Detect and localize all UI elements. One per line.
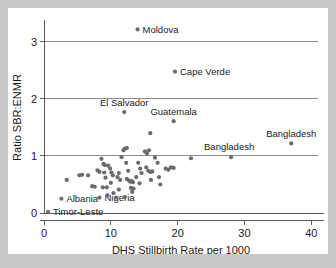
point-label-nigeria-7: Nigeria: [104, 192, 135, 203]
data-point-23: [101, 185, 105, 189]
data-point-bangladesh-4: [289, 141, 293, 145]
x-tick-label-40: 40: [305, 227, 317, 239]
point-label-cape-verde-1: Cape Verde: [180, 66, 230, 77]
figure-panel: 0123010203040DHS Stillbirth Rate per 100…: [8, 8, 328, 254]
data-point-24: [105, 185, 109, 189]
data-point-71: [114, 196, 118, 200]
data-point-40: [126, 169, 130, 173]
data-point-moldova-0: [135, 27, 139, 31]
point-label-albania-6: Albania: [66, 193, 98, 204]
y-axis-title: Ratio SBR:ENMR: [11, 74, 23, 161]
data-point-33: [118, 178, 122, 182]
data-point-48: [130, 190, 134, 194]
y-tick-label-2: 2: [31, 93, 37, 105]
data-point-63: [156, 161, 160, 165]
data-point-13: [86, 173, 90, 177]
x-tick-label-0: 0: [41, 227, 47, 239]
y-tick-label-0: 0: [31, 207, 37, 219]
data-point-bangladesh-5: [229, 155, 233, 159]
data-point-50: [136, 161, 140, 165]
data-point-26: [108, 166, 112, 170]
data-point-69: [172, 166, 176, 170]
point-label-timor-leste-8: Timor-Leste: [53, 206, 103, 217]
y-tick-label-1: 1: [31, 150, 37, 162]
data-point-52: [139, 171, 143, 175]
point-label-bangladesh-4: Bangladesh: [266, 128, 316, 139]
data-point-cape-verde-1: [173, 70, 177, 74]
data-point-64: [157, 175, 161, 179]
data-point-60: [150, 169, 154, 173]
data-point-65: [158, 182, 162, 186]
data-point-10: [65, 178, 69, 182]
data-point-17: [97, 170, 101, 174]
data-point-9: [148, 131, 152, 135]
x-tick-label-10: 10: [105, 227, 117, 239]
data-point-12: [80, 173, 84, 177]
data-point-70: [189, 156, 193, 160]
data-point-29: [109, 181, 113, 185]
chart-svg: 0123010203040DHS Stillbirth Rate per 100…: [8, 8, 328, 254]
data-point-38: [125, 146, 129, 150]
point-label-guatemala-3: Guatemala: [150, 106, 197, 117]
data-point-61: [149, 178, 153, 182]
x-axis-title: DHS Stillbirth Rate per 1000: [112, 244, 250, 254]
x-tick-label-20: 20: [172, 227, 184, 239]
x-tick-label-30: 30: [238, 227, 250, 239]
data-point-53: [137, 181, 141, 185]
data-point-34: [117, 188, 121, 192]
data-point-49: [134, 175, 138, 179]
point-label-el-salvador-2: El Salvador: [100, 97, 149, 108]
data-point-28: [111, 173, 115, 177]
data-point-62: [153, 156, 157, 160]
y-tick-label-3: 3: [31, 36, 37, 48]
data-point-30: [111, 191, 115, 195]
data-point-timor-leste-8: [46, 210, 50, 214]
data-point-72: [123, 195, 127, 199]
data-point-nigeria-7: [97, 196, 101, 200]
data-point-45: [131, 180, 135, 184]
data-point-73: [105, 193, 109, 197]
data-point-56: [147, 148, 151, 152]
point-label-bangladesh-5: Bangladesh: [204, 141, 254, 152]
data-point-albania-6: [59, 197, 63, 201]
data-point-22: [103, 176, 107, 180]
data-point-51: [138, 166, 142, 170]
data-point-18: [99, 157, 103, 161]
data-point-39: [124, 161, 128, 165]
data-point-35: [119, 155, 123, 159]
data-point-el-salvador-2: [122, 110, 126, 114]
data-point-15: [93, 185, 97, 189]
data-point-guatemala-3: [172, 119, 176, 123]
data-point-32: [117, 171, 121, 175]
point-label-moldova-0: Moldova: [143, 24, 180, 35]
data-point-21: [102, 170, 106, 174]
scatter-plot: 0123010203040DHS Stillbirth Rate per 100…: [8, 8, 328, 254]
